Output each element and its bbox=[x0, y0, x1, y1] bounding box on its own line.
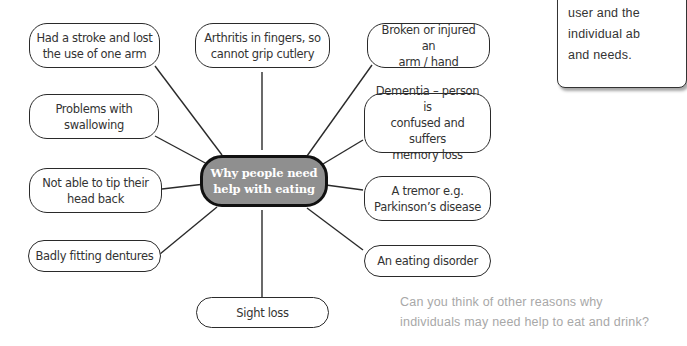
node-swallowing: Problems with swallowing bbox=[29, 94, 159, 139]
node-sight-loss: Sight loss bbox=[196, 297, 329, 328]
connector-dementia bbox=[318, 140, 363, 167]
node-tremor: A tremor e.g. Parkinson’s disease bbox=[364, 176, 491, 221]
node-text: memory loss bbox=[392, 147, 463, 163]
node-tip-head: Not able to tip their head back bbox=[29, 168, 162, 213]
node-text: swallowing bbox=[64, 117, 124, 133]
node-text: Parkinson’s disease bbox=[374, 199, 481, 215]
node-text: Dementia – person is bbox=[371, 83, 484, 115]
node-text: cannot grip cutlery bbox=[211, 46, 315, 62]
side-note-box: user and the individual ab and needs. bbox=[557, 0, 687, 88]
central-topic-line2: help with eating bbox=[213, 181, 315, 197]
node-text: confused and suffers bbox=[371, 115, 484, 147]
side-note-line2: individual ab bbox=[568, 24, 686, 45]
node-text: Badly fitting dentures bbox=[36, 248, 154, 264]
connector-eating-disorder bbox=[307, 208, 363, 250]
central-topic: Why people need help with eating bbox=[200, 155, 328, 207]
node-text: arm / hand bbox=[399, 54, 459, 70]
node-text: Sight loss bbox=[236, 305, 288, 321]
node-text: A tremor e.g. bbox=[392, 183, 464, 199]
node-stroke: Had a stroke and lost the use of one arm bbox=[29, 23, 160, 68]
question-line1: Can you think of other reasons why bbox=[400, 292, 658, 312]
node-arthritis: Arthritis in fingers, so cannot grip cut… bbox=[195, 23, 330, 68]
node-text: Arthritis in fingers, so bbox=[204, 30, 321, 46]
connector-swallowing bbox=[155, 136, 209, 165]
node-text: Not able to tip their bbox=[42, 175, 148, 191]
central-topic-line1: Why people need bbox=[211, 165, 318, 181]
node-text: Had a stroke and lost bbox=[36, 30, 152, 46]
question-line2: individuals may need help to eat and dri… bbox=[400, 312, 658, 332]
reflection-question: Can you think of other reasons why indiv… bbox=[400, 292, 658, 332]
node-text: An eating disorder bbox=[377, 253, 478, 269]
connector-dentures bbox=[160, 207, 217, 254]
node-text: head back bbox=[67, 191, 124, 207]
connector-tremor bbox=[326, 185, 363, 190]
node-text: Broken or injured an bbox=[374, 22, 483, 54]
side-note-line3: and needs. bbox=[568, 45, 686, 66]
connector-tip-head bbox=[162, 184, 205, 189]
connector-broken-arm bbox=[307, 65, 372, 156]
node-dentures: Badly fitting dentures bbox=[28, 240, 161, 272]
node-eating-disorder: An eating disorder bbox=[364, 245, 491, 277]
node-broken-arm: Broken or injured an arm / hand bbox=[367, 23, 490, 68]
node-text: Problems with bbox=[55, 101, 132, 117]
node-dementia: Dementia – person is confused and suffer… bbox=[364, 93, 491, 153]
node-text: the use of one arm bbox=[43, 46, 147, 62]
side-note-line1: user and the bbox=[568, 3, 686, 24]
